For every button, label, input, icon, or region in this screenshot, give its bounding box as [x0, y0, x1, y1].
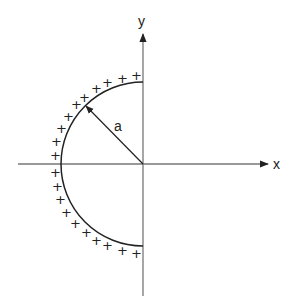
charge-plus: +: [91, 233, 102, 248]
radius-label: a: [114, 118, 122, 134]
charge-plus: +: [51, 134, 62, 149]
charge-plus: +: [117, 71, 128, 86]
charge-plus: +: [131, 68, 142, 83]
charge-plus: +: [91, 81, 102, 96]
semicircle-charge-diagram: y x a + + + + + + + + + + + + + + + + + …: [0, 0, 298, 304]
charge-plus: +: [50, 148, 61, 163]
x-axis-label: x: [273, 156, 280, 172]
charge-plus: +: [50, 165, 61, 180]
radius-arrow: [86, 106, 143, 164]
charge-plus: +: [102, 75, 113, 90]
charge-plus: +: [102, 238, 113, 253]
charge-plus: +: [117, 243, 128, 258]
charge-plus: +: [70, 216, 81, 231]
charge-plus: +: [131, 246, 142, 261]
y-axis-label: y: [138, 13, 145, 29]
